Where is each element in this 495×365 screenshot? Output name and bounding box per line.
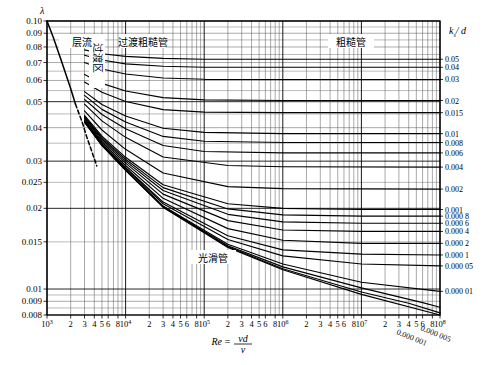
x-tick-label: 4 (407, 319, 412, 329)
right-axis-label: 0.008 (445, 139, 463, 148)
x-tick-label: 5 (178, 319, 182, 329)
y-tick-label: 0.06 (26, 75, 42, 85)
y-tick-label: 0.07 (26, 58, 42, 68)
right-axis-label: 0.000 2 (445, 239, 469, 248)
right-axis-label: 0.01 (445, 130, 459, 139)
right-axis-label: 0.000 1 (445, 251, 469, 260)
right-axis-label: 0.02 (445, 97, 459, 106)
zone-label: 过渡粗糙管 (118, 36, 168, 48)
y-tick-label: 0.008 (22, 310, 43, 320)
x-tick-label: 2 (383, 319, 387, 329)
zone-label: 层流 (72, 36, 92, 48)
plot-border (47, 21, 440, 315)
zone-smooth-pipe: 光滑管 (190, 250, 236, 264)
right-axis-label: 0.000 05 (445, 262, 473, 271)
curve-ks-0.000001 (85, 122, 441, 313)
x-axis-title-re: Re (210, 336, 222, 347)
x-tick-label: 4 (92, 319, 97, 329)
right-axis-labels: 0.050.040.030.020.0150.010.0080.0060.004… (440, 55, 473, 296)
curve-layer (47, 21, 440, 315)
curve-ks-0.015 (85, 82, 441, 113)
y-axis-title: λ (39, 5, 45, 16)
x-tick-label: 2 (147, 319, 151, 329)
y-tick-label: 0.08 (26, 42, 42, 52)
y-axis-ticks: 0.100.090.080.070.060.050.040.030.0250.0… (22, 16, 47, 320)
right-axis-label: 0.03 (445, 75, 459, 84)
diagonal-labels: 0.000 0010.000 005 (395, 324, 452, 348)
x-tick-label: 103 (41, 319, 53, 330)
zone-label: 光滑管 (198, 252, 228, 264)
x-tick-label: 3 (82, 319, 86, 329)
x-tick-label: 5 (414, 319, 418, 329)
right-axis-label: 0.002 (445, 185, 463, 194)
plot-frame (47, 21, 440, 315)
x-tick-label: 2 (226, 319, 230, 329)
x-tick-label: 6 (263, 319, 267, 329)
minor-gridlines (47, 21, 440, 315)
x-axis-title-numerator: vd (238, 333, 248, 344)
x-tick-label: 6 (185, 319, 189, 329)
zone-transition-zone: 过渡区 (89, 43, 105, 88)
right-axis-label: 0.04 (445, 63, 459, 72)
y-tick-label: 0.05 (26, 97, 42, 107)
curve-ks-0.002 (85, 111, 441, 189)
curve-ks-0.008 (85, 95, 441, 142)
x-tick-label: 4 (249, 319, 254, 329)
x-tick-label: 3 (161, 319, 165, 329)
y-tick-label: 0.04 (26, 123, 42, 133)
chart-svg: 1032345681042345681052345681062345681072… (0, 0, 495, 365)
x-axis-ticks: 1032345681042345681052345681062345681072… (41, 315, 446, 329)
x-tick-label: 2 (304, 319, 308, 329)
x-tick-label: 4 (328, 319, 333, 329)
y-tick-label: 0.015 (22, 237, 43, 247)
y-tick-label: 0.02 (26, 203, 42, 213)
zone-label: 过渡区 (92, 43, 104, 73)
x-tick-label: 108 (434, 319, 446, 330)
x-axis-title-eq: = (224, 336, 231, 347)
right-axis-label: 0.004 (445, 163, 463, 172)
x-tick-label: 5 (336, 319, 340, 329)
right-axis-title: ks/ d (449, 25, 467, 38)
curve-ks-0.001 (85, 115, 441, 209)
zone-transition-rough: 过渡粗糙管 (118, 34, 168, 48)
y-tick-label: 0.01 (26, 284, 42, 294)
zone-label: 粗糙管 (336, 36, 366, 48)
x-tick-label: 106 (277, 319, 289, 330)
y-tick-label: 0.03 (26, 156, 42, 166)
x-tick-label: 104 (120, 319, 132, 330)
x-tick-label: 5 (257, 319, 261, 329)
x-axis-title: Re=vdν (210, 333, 252, 355)
right-axis-label: 0.015 (445, 109, 463, 118)
y-tick-label: 0.009 (22, 296, 43, 306)
major-gridlines (47, 21, 440, 315)
x-tick-label: 3 (318, 319, 322, 329)
x-tick-label: 3 (240, 319, 244, 329)
right-axis-title-text: ks/ d (449, 25, 467, 38)
y-tick-label: 0.09 (26, 28, 42, 38)
curve-ks-0.02 (85, 74, 441, 100)
right-axis-label: 0.006 (445, 149, 463, 158)
x-tick-label: 5 (100, 319, 104, 329)
right-axis-label: 0.000 4 (445, 227, 469, 236)
x-tick-label: 107 (356, 319, 368, 330)
x-tick-label: 6 (342, 319, 346, 329)
y-tick-label: 0.025 (22, 177, 43, 187)
x-tick-label: 2 (69, 319, 73, 329)
x-tick-label: 105 (198, 319, 210, 330)
right-axis-label: 0.000 01 (445, 287, 473, 296)
curve-ks-0.000005 (85, 122, 441, 307)
x-tick-label: 4 (171, 319, 176, 329)
x-axis-title-denominator: ν (241, 344, 246, 355)
x-tick-label: 6 (106, 319, 110, 329)
curve-ks-0.0004 (85, 118, 441, 231)
y-tick-label: 0.10 (26, 16, 42, 26)
moody-diagram: 1032345681042345681052345681062345681072… (0, 0, 495, 365)
zone-rough-pipe: 粗糙管 (328, 34, 374, 48)
